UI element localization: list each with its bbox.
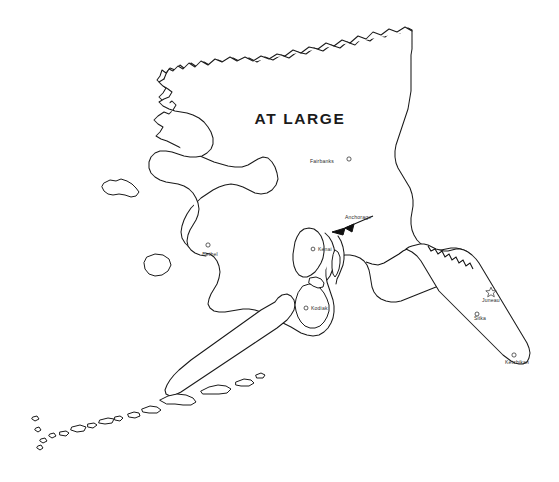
- nunivak-island: [144, 254, 171, 276]
- city-label-kodiak: Kodiak: [311, 305, 328, 311]
- circle-icon: [304, 306, 308, 310]
- city-label-kenai: Kenai: [318, 246, 332, 252]
- circle-icon: [206, 243, 210, 247]
- city-label-bethel: Bethel: [202, 251, 218, 257]
- circle-icon: [347, 157, 351, 161]
- city-label-sitka: Sitka: [474, 315, 486, 321]
- city-anchorage[interactable]: Anchorage: [345, 214, 371, 220]
- city-label-anchorage: Anchorage: [345, 214, 371, 220]
- city-label-juneau: Juneau: [482, 297, 500, 303]
- district-title: AT LARGE: [255, 110, 346, 127]
- alaska-outline-map: AT LARGE Fairbanks Anchorage Kenai Bethe…: [0, 0, 559, 482]
- map-canvas: AT LARGE Fairbanks Anchorage Kenai Bethe…: [0, 0, 559, 482]
- st-lawrence-island: [102, 179, 139, 197]
- circle-icon: [311, 247, 315, 251]
- southeast-panhandle-outline: [406, 244, 530, 364]
- city-label-ketchikan: Ketchikan: [505, 359, 529, 365]
- circle-icon: [512, 353, 516, 357]
- aleutian-islands: [32, 373, 265, 450]
- city-label-fairbanks: Fairbanks: [310, 158, 334, 164]
